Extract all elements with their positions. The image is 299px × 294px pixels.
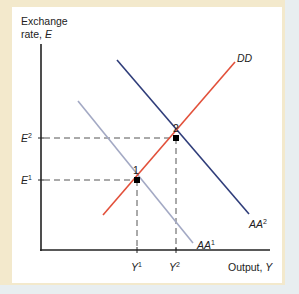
x-axis-label: Output, Y [228, 261, 273, 273]
y-axis-label-line2: rate, E [21, 28, 53, 40]
y2-label: Y2 [169, 261, 180, 273]
y1-label: Y1 [131, 261, 142, 273]
e1-label: E1 [21, 174, 32, 186]
point-2-label: 2 [173, 122, 179, 134]
equilibrium-point-1 [134, 177, 140, 183]
dd-label: DD [237, 52, 253, 64]
e2-label: E2 [21, 132, 32, 144]
y-axis-label-line1: Exchange [21, 15, 68, 27]
dd-curve [103, 62, 235, 215]
dd-aa-diagram: Exchange rate, E E2 E1 Y1 Y2 Output, Y D… [0, 0, 299, 294]
equilibrium-point-2 [173, 135, 179, 141]
point-1-label: 1 [133, 164, 139, 176]
guide-lines [44, 138, 176, 250]
aa2-label: AA2 [248, 218, 267, 230]
